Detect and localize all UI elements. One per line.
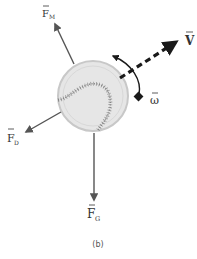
drag-force-arrow: [26, 112, 61, 132]
svg-text:F: F: [42, 8, 49, 19]
velocity-label: V: [184, 32, 195, 48]
gravity-force-label: F G: [87, 205, 100, 223]
magnus-force-arrow: [55, 24, 74, 64]
svg-text:V: V: [184, 34, 195, 48]
magnus-force-label: F M: [42, 6, 55, 20]
baseball: [58, 61, 128, 131]
spin-axis-diamond: [134, 92, 144, 102]
angular-velocity-label: ω: [150, 93, 159, 107]
figure-caption: (b): [92, 240, 103, 249]
velocity-arrow: [120, 42, 176, 78]
svg-text:ω: ω: [150, 94, 159, 107]
svg-text:G: G: [95, 215, 100, 223]
free-body-diagram: F M V ω F D F G (b): [0, 0, 197, 259]
svg-text:M: M: [49, 13, 55, 20]
drag-force-label: F D: [7, 129, 19, 146]
svg-text:D: D: [14, 139, 19, 146]
